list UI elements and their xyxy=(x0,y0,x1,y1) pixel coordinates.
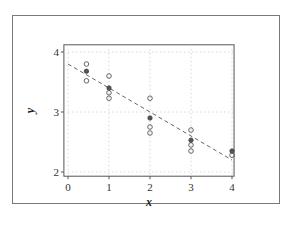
scatter-chart: 01234234 x y xyxy=(0,0,286,225)
x-tick-label: 0 xyxy=(65,181,71,193)
y-tick-label: 3 xyxy=(53,106,59,118)
x-tick-label: 4 xyxy=(229,181,235,193)
x-tick-label: 1 xyxy=(106,181,112,193)
mean-point xyxy=(230,149,234,153)
mean-point xyxy=(84,69,88,73)
x-axis-title: x xyxy=(145,195,152,209)
mean-point xyxy=(189,138,193,142)
plot-area xyxy=(64,45,234,176)
x-tick-label: 3 xyxy=(188,181,194,193)
x-tick-label: 2 xyxy=(147,181,153,193)
mean-point xyxy=(107,86,111,90)
y-tick-label: 4 xyxy=(53,46,59,58)
mean-point xyxy=(148,116,152,120)
y-axis-title: y xyxy=(23,107,37,115)
y-tick-label: 2 xyxy=(53,166,59,178)
